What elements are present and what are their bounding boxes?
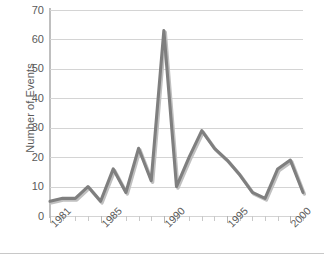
x-axis-tick — [278, 216, 279, 221]
x-axis-tick — [75, 216, 76, 221]
line-chart: Number of Events 010203040506070 1981198… — [0, 0, 324, 254]
x-axis-tick — [252, 216, 253, 221]
series-line-path — [50, 31, 303, 202]
series-line — [0, 0, 324, 254]
x-axis-tick — [139, 216, 140, 221]
series-line-shadow — [51, 32, 304, 203]
x-axis-tick — [265, 216, 266, 221]
x-axis-tick — [88, 216, 89, 221]
x-axis-tick — [189, 216, 190, 221]
x-axis-tick — [126, 216, 127, 221]
x-axis-tick — [214, 216, 215, 221]
x-axis-tick — [151, 216, 152, 221]
x-axis-tick — [202, 216, 203, 221]
